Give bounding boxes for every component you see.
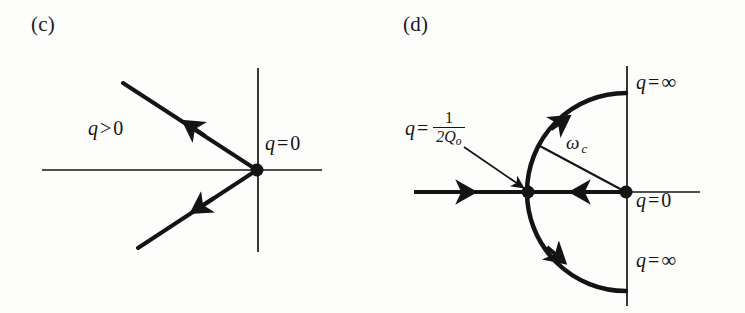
q-symbol: q xyxy=(405,117,415,139)
panel-c: (c) q>0 q=0 xyxy=(0,0,373,313)
panel-d-breakaway-pointer-arrow xyxy=(464,147,521,186)
fraction: 12Qo xyxy=(433,110,464,148)
panel-d-label-omega-c: ωc xyxy=(566,133,587,156)
panel-d-origin-dot xyxy=(620,186,633,199)
zero-value: 0 xyxy=(661,189,671,211)
q-symbol: q xyxy=(636,249,646,271)
figure-canvas: (c) q>0 q=0 xyxy=(0,0,745,313)
panel-d-label-q-equals-infinity-upper: q=∞ xyxy=(636,72,676,93)
panel-d-breakaway-dot xyxy=(522,186,535,199)
greater-than-operator: > xyxy=(98,117,113,139)
panel-c-upper-branch-arrow xyxy=(186,123,205,136)
q-symbol: q xyxy=(265,132,275,154)
panel-d-label-q-equals-one-over-two-Qo: q=12Qo xyxy=(405,110,465,148)
omega-subscript: c xyxy=(579,141,587,156)
q-symbol: q xyxy=(636,71,646,93)
q-symbol: q xyxy=(636,189,646,211)
equals-operator: = xyxy=(646,71,661,93)
panel-c-lower-branch-arrow xyxy=(194,198,214,211)
q-symbol: q xyxy=(88,117,98,139)
fraction-denominator: 2Qo xyxy=(433,128,464,148)
infinity-value: ∞ xyxy=(661,248,676,272)
panel-d-label-q-equals-zero: q=0 xyxy=(636,190,671,210)
panel-d-graphic xyxy=(373,0,745,313)
equals-operator: = xyxy=(275,132,290,154)
equals-operator: = xyxy=(646,249,661,271)
omega-symbol: ω xyxy=(566,132,579,153)
infinity-value: ∞ xyxy=(661,70,676,94)
panel-c-label-q-equals-zero: q=0 xyxy=(265,133,300,153)
zero-value: 0 xyxy=(290,132,300,154)
panel-c-graphic xyxy=(0,0,373,313)
panel-d-label-q-equals-infinity-lower: q=∞ xyxy=(636,250,676,271)
denominator-subscript: o xyxy=(456,135,462,147)
equals-operator: = xyxy=(646,189,661,211)
denominator-base: 2Q xyxy=(436,128,456,145)
zero-value: 0 xyxy=(113,117,123,139)
panel-c-origin-dot xyxy=(251,164,264,177)
fraction-numerator: 1 xyxy=(433,110,464,128)
equals-operator: = xyxy=(415,117,430,139)
panel-c-label-q-greater-than-zero: q>0 xyxy=(88,118,123,138)
panel-d: (d) xyxy=(373,0,745,313)
